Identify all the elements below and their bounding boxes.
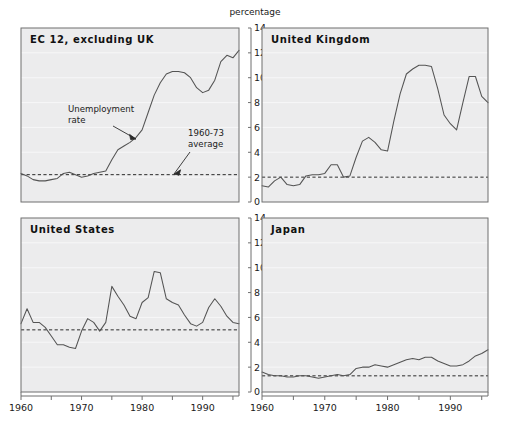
y-axis-tick-label: 6 [254,312,260,323]
x-axis-tick-label: 1990 [191,402,215,413]
y-axis-tick-label: 8 [254,97,260,108]
panel-title: Japan [270,224,306,235]
x-axis-tick-label: 1960 [250,402,274,413]
unemployment-rate-figure: percentage EC 12, excluding UK0246810121… [0,0,505,426]
annotation-series-label-line2: rate [68,115,85,125]
panel-2: United Kingdom [262,28,488,202]
panel-background [21,28,239,202]
x-axis-tick-label: 1960 [9,402,33,413]
panel-title: EC 12, excluding UK [30,34,155,45]
x-axis-tick-label: 1980 [375,402,399,413]
annotation-average-label-line1: 1960-73 [188,128,224,138]
x-axis-tick-label: 1970 [313,402,337,413]
x-axis-tick-label: 1990 [438,402,462,413]
y-axis-tick-label: 8 [254,287,260,298]
y-axis-tick-label: 4 [254,147,260,158]
x-axis-tick-label: 1980 [130,402,154,413]
panel-background [262,28,488,202]
panel-title: United States [30,224,115,235]
y-axis-tick-label: 0 [254,386,260,397]
panel-1: EC 12, excluding UK02468101214 [21,22,266,207]
figure-axis-title: percentage [229,7,281,17]
annotation-series-label-line1: Unemployment [68,104,135,114]
y-axis-tick-label: 2 [254,362,260,373]
figure-svg: percentage EC 12, excluding UK0246810121… [0,0,505,426]
y-axis-tick-label: 6 [254,122,260,133]
y-axis-tick-label: 2 [254,172,260,183]
y-axis-tick-label: 4 [254,337,260,348]
panel-title: United Kingdom [271,34,370,45]
panel-background [21,218,239,392]
annotation-average-label-line2: average [188,139,223,149]
panel-4: Japan1960197019801990 [250,218,488,413]
x-axis-tick-label: 1970 [69,402,93,413]
y-axis-tick-label: 0 [254,196,260,207]
panel-3: United States024681012141960197019801990 [9,212,266,413]
